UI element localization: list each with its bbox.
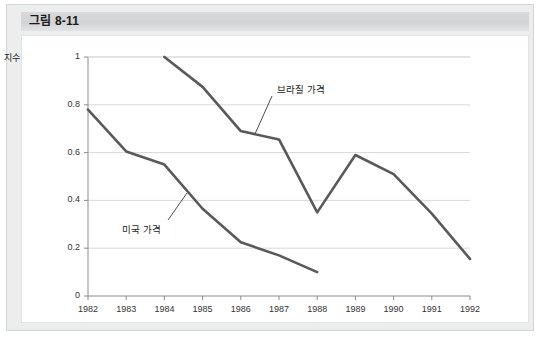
figure-frame: 그림 8-11 xyxy=(6,4,534,331)
figure-header-band xyxy=(21,12,529,31)
chart-panel xyxy=(21,35,529,323)
figure-title: 그림 8-11 xyxy=(29,12,79,31)
